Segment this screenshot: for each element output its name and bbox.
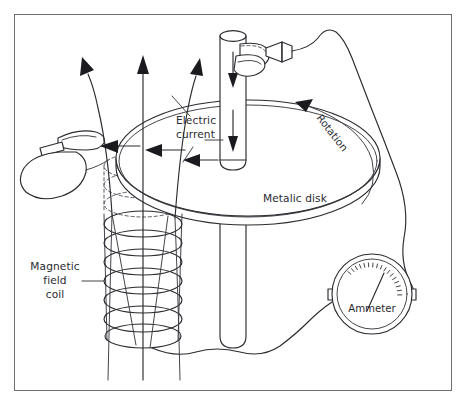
top-slip-ring-brush	[234, 42, 292, 76]
figure-root: Electric current Rotation Metalic disk M…	[0, 0, 467, 406]
electric-current-label-line2: current	[176, 128, 215, 140]
magnetic-field-coil-label-line2: field	[43, 274, 66, 286]
magnetic-field-coil-label-line1: Magnetic	[30, 260, 79, 272]
metalic-disk-label: Metalic disk	[263, 192, 328, 204]
ammeter: Ammeter	[328, 254, 416, 334]
field-line-left-lower	[108, 214, 112, 380]
magnetic-field-coil-label-line3: coil	[46, 288, 65, 300]
metalic-disk	[116, 100, 380, 225]
electric-current-label-line1: Electric	[176, 114, 216, 126]
wire-left-brush-loop	[20, 152, 86, 199]
homopolar-generator-diagram: Electric current Rotation Metalic disk M…	[0, 0, 467, 406]
field-line-center	[137, 55, 149, 380]
ammeter-label: Ammeter	[348, 303, 396, 314]
